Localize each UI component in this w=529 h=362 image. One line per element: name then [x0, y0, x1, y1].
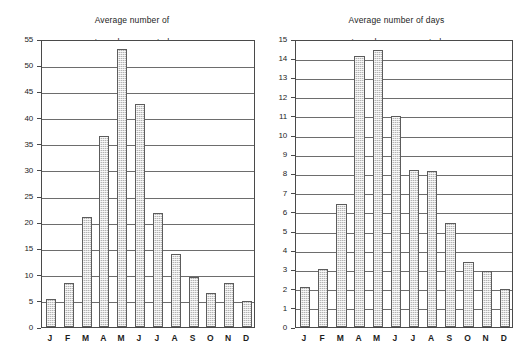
- y-tick-label: 3: [261, 266, 287, 274]
- y-tick-label: 13: [261, 74, 287, 82]
- y-tick-mark: [37, 92, 41, 93]
- y-tick-label: 45: [7, 88, 33, 96]
- y-tick-mark: [37, 249, 41, 250]
- gridline: [296, 98, 512, 99]
- y-tick-label: 30: [7, 167, 33, 175]
- x-tick-label: J: [148, 334, 166, 343]
- bar: [153, 213, 163, 327]
- chart-title-line-1: Average number of days: [264, 15, 529, 26]
- bar: [64, 283, 74, 327]
- y-tick-label: 11: [261, 113, 287, 121]
- y-tick-mark: [37, 170, 41, 171]
- gridline: [296, 79, 512, 80]
- y-tick-mark: [37, 275, 41, 276]
- x-tick-label: D: [237, 334, 255, 343]
- x-tick-label: J: [404, 334, 422, 343]
- gridline: [42, 198, 254, 199]
- bar: [336, 204, 346, 327]
- gridline: [42, 276, 254, 277]
- x-tick-label: O: [459, 334, 477, 343]
- chart-title-tornado-days: Average number of days tornadoes are rep…: [264, 0, 529, 59]
- y-tick-mark: [291, 232, 295, 233]
- gridline: [296, 156, 512, 157]
- bar: [224, 283, 234, 328]
- y-tick-label: 9: [261, 151, 287, 159]
- y-tick-label: 5: [261, 228, 287, 236]
- y-tick-label: 12: [261, 94, 287, 102]
- gridline: [296, 213, 512, 214]
- y-tick-label: 10: [7, 272, 33, 280]
- bar: [189, 277, 199, 327]
- chart-title-line-1: Average number of: [0, 15, 264, 26]
- bar: [391, 116, 401, 327]
- chart-panel-tornado-days: Average number of days tornadoes are rep…: [264, 0, 529, 362]
- y-tick-label: 8: [261, 170, 287, 178]
- gridline: [42, 145, 254, 146]
- plot-frame: [41, 40, 255, 328]
- y-tick-mark: [291, 328, 295, 329]
- x-tick-label: M: [112, 334, 130, 343]
- gridline: [42, 250, 254, 251]
- x-tick-label: M: [77, 334, 95, 343]
- x-tick-label: A: [95, 334, 113, 343]
- y-tick-label: 10: [261, 132, 287, 140]
- bar: [171, 254, 181, 327]
- y-tick-mark: [291, 78, 295, 79]
- y-tick-mark: [291, 251, 295, 252]
- y-tick-mark: [291, 270, 295, 271]
- y-tick-mark: [37, 118, 41, 119]
- bar: [206, 293, 216, 327]
- y-tick-mark: [37, 223, 41, 224]
- y-tick-mark: [291, 308, 295, 309]
- gridline: [42, 171, 254, 172]
- y-tick-label: 6: [261, 209, 287, 217]
- tornado-statistics-figure: Average number of tornadoes reported 051…: [0, 0, 529, 362]
- x-tick-label: A: [166, 334, 184, 343]
- gridline: [296, 309, 512, 310]
- y-tick-label: 0: [261, 324, 287, 332]
- gridline: [296, 194, 512, 195]
- bar: [373, 50, 383, 327]
- y-tick-label: 7: [261, 190, 287, 198]
- y-tick-label: 2: [261, 286, 287, 294]
- y-tick-mark: [291, 174, 295, 175]
- bar: [500, 289, 510, 327]
- y-tick-label: 20: [7, 219, 33, 227]
- gridline: [296, 117, 512, 118]
- gridline: [296, 271, 512, 272]
- gridline: [296, 137, 512, 138]
- bar: [482, 271, 492, 327]
- y-tick-label: 5: [7, 298, 33, 306]
- bar: [300, 287, 310, 327]
- chart-title-tornado-count: Average number of tornadoes reported: [0, 0, 264, 59]
- x-tick-label: A: [350, 334, 368, 343]
- bar: [135, 104, 145, 327]
- x-tick-label: J: [386, 334, 404, 343]
- bar: [117, 49, 127, 327]
- bar: [427, 171, 437, 327]
- y-tick-label: 1: [261, 305, 287, 313]
- x-tick-label: J: [130, 334, 148, 343]
- gridline: [296, 233, 512, 234]
- y-tick-mark: [37, 328, 41, 329]
- bar: [99, 136, 109, 327]
- x-tick-label: J: [41, 334, 59, 343]
- gridline: [42, 302, 254, 303]
- x-tick-label: F: [59, 334, 77, 343]
- bar: [445, 223, 455, 327]
- x-tick-label: J: [295, 334, 313, 343]
- gridline: [42, 224, 254, 225]
- x-tick-label: N: [219, 334, 237, 343]
- y-tick-label: 0: [7, 324, 33, 332]
- y-tick-mark: [37, 66, 41, 67]
- gridline: [296, 290, 512, 291]
- bar: [354, 56, 364, 327]
- y-tick-mark: [291, 136, 295, 137]
- y-tick-mark: [37, 301, 41, 302]
- y-tick-label: 25: [7, 193, 33, 201]
- y-tick-mark: [291, 212, 295, 213]
- x-tick-label: A: [422, 334, 440, 343]
- y-tick-label: 50: [7, 62, 33, 70]
- y-tick-mark: [37, 197, 41, 198]
- x-tick-label: M: [368, 334, 386, 343]
